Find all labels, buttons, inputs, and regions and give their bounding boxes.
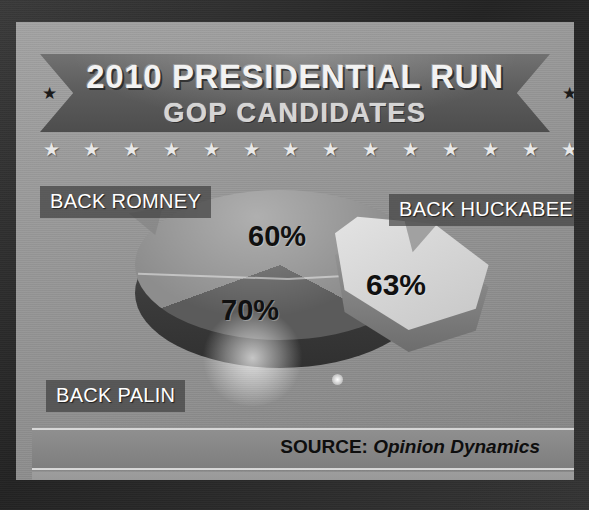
star-icon: ★	[282, 478, 299, 481]
tv-graphic-screenshot: 2010 PRESIDENTIAL RUN GOP CANDIDATES ★ ★…	[0, 0, 589, 510]
graphic-panel: 2010 PRESIDENTIAL RUN GOP CANDIDATES ★ ★…	[16, 22, 574, 480]
lens-flare-dot-icon	[332, 374, 343, 385]
star-icon: ★	[163, 138, 180, 161]
star-icon: ★	[362, 138, 379, 161]
star-icon: ★	[561, 478, 574, 481]
source-prefix: SOURCE:	[280, 436, 368, 457]
star-icon: ★	[123, 138, 140, 161]
star-icon: ★	[203, 478, 220, 481]
star-icon: ★	[562, 85, 574, 102]
slice-value-huckabee: 63%	[366, 268, 426, 302]
star-icon: ★	[402, 478, 419, 481]
star-icon: ★	[442, 478, 459, 481]
star-icon: ★	[163, 478, 180, 481]
slice-label-palin: BACK PALIN	[46, 380, 185, 412]
star-icon: ★	[482, 138, 499, 161]
star-icon: ★	[322, 138, 339, 161]
star-icon: ★	[243, 138, 260, 161]
star-icon: ★	[123, 478, 140, 481]
star-icon: ★	[482, 478, 499, 481]
star-icon: ★	[402, 138, 419, 161]
star-icon: ★	[561, 138, 574, 161]
source-credit: SOURCE: Opinion Dynamics	[280, 436, 540, 458]
slice-label-romney: BACK ROMNEY	[40, 186, 211, 218]
divider-rule	[32, 428, 574, 430]
star-icon: ★	[522, 478, 539, 481]
source-name: Opinion Dynamics	[373, 436, 540, 457]
star-icon: ★	[43, 478, 60, 481]
star-icon: ★	[203, 138, 220, 161]
star-icon: ★	[322, 478, 339, 481]
star-icon: ★	[282, 138, 299, 161]
slice-value-romney: 60%	[248, 220, 306, 253]
star-icon: ★	[362, 478, 379, 481]
star-icon: ★	[83, 138, 100, 161]
star-icon: ★	[243, 478, 260, 481]
page-title: 2010 PRESIDENTIAL RUN	[40, 58, 550, 96]
page-subtitle: GOP CANDIDATES	[40, 98, 550, 129]
star-icon: ★	[522, 138, 539, 161]
star-row-bottom: ★★★★★★★★★★★★★★	[32, 472, 574, 480]
divider-rule	[32, 468, 574, 470]
star-icon: ★	[442, 138, 459, 161]
star-icon: ★	[83, 478, 100, 481]
star-icon: ★	[43, 138, 60, 161]
slice-value-palin: 70%	[221, 294, 279, 327]
slice-divider	[138, 273, 288, 280]
slice-label-huckabee: BACK HUCKABEE	[389, 194, 574, 226]
star-row-top: ★★★★★★★★★★★★★★	[32, 136, 574, 162]
star-icon: ★	[42, 85, 57, 102]
